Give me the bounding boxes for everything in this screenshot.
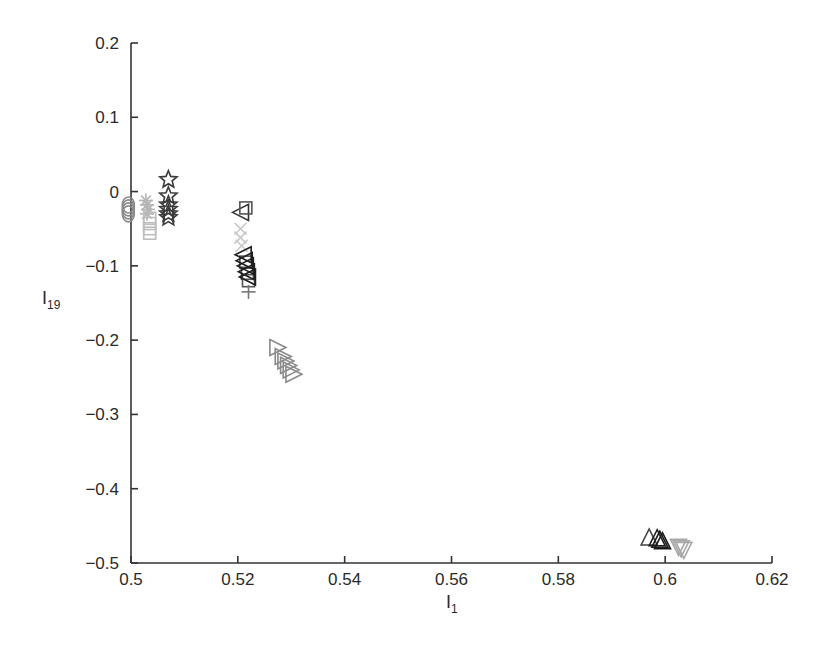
x-tick-label: 0.5 (119, 570, 143, 589)
x-tick-label: 0.52 (221, 570, 254, 589)
y-tick-label: −0.1 (85, 257, 119, 276)
star-marker (160, 171, 177, 187)
y-tick-label: −0.3 (85, 405, 119, 424)
x-tick-label: 0.58 (542, 570, 575, 589)
x-tick-label: 0.62 (755, 570, 788, 589)
y-tick-label: 0 (110, 183, 119, 202)
y-axis-label: I19 (42, 288, 61, 312)
x-tick-label: 0.56 (435, 570, 468, 589)
scatter-chart: 0.50.520.540.560.580.60.62−0.5−0.4−0.3−0… (0, 0, 832, 650)
y-tick-label: −0.2 (85, 331, 119, 350)
x-tick-label: 0.54 (328, 570, 361, 589)
x-tick-label: 0.6 (653, 570, 677, 589)
y-tick-label: −0.5 (85, 554, 119, 573)
data-points (122, 171, 692, 559)
x-axis-label: I1 (446, 592, 458, 616)
axes: 0.50.520.540.560.580.60.62−0.5−0.4−0.3−0… (85, 34, 788, 589)
y-tick-label: 0.1 (95, 108, 119, 127)
y-tick-label: −0.4 (85, 480, 119, 499)
asterisk-marker (140, 207, 154, 221)
y-tick-label: 0.2 (95, 34, 119, 53)
